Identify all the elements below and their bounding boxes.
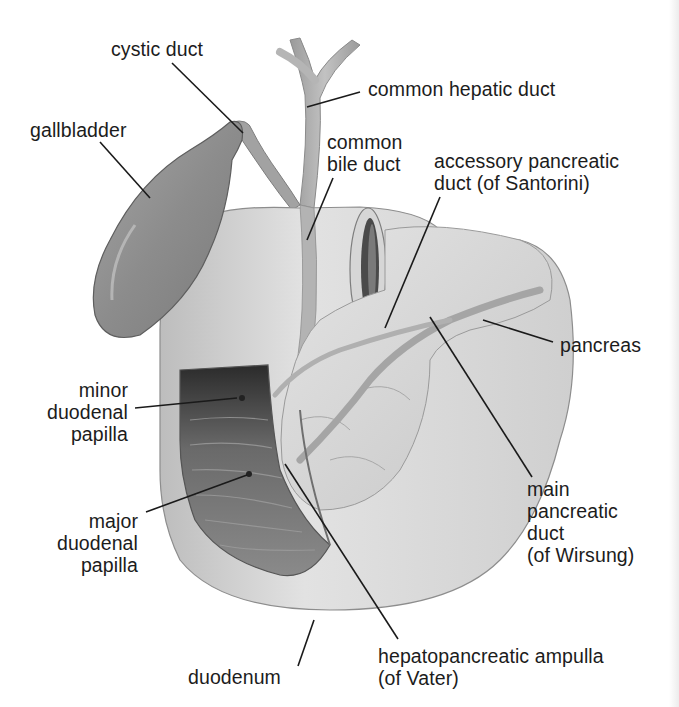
label-cystic-duct: cystic duct (111, 38, 203, 60)
page-edge-shadow (669, 0, 679, 707)
label-duodenum: duodenum (188, 666, 281, 688)
label-common-hepatic-duct: common hepatic duct (368, 78, 555, 100)
label-main-pancreatic-duct: main pancreatic duct (of Wirsung) (527, 478, 634, 566)
label-minor-duodenal-papilla: minor duodenal papilla (30, 379, 128, 445)
anatomy-diagram: cystic duct common hepatic duct gallblad… (0, 0, 679, 707)
label-common-bile-duct: common bile duct (327, 131, 402, 175)
minor-papilla-dot (239, 395, 245, 401)
label-accessory-pancreatic-duct: accessory pancreatic duct (of Santorini) (434, 150, 619, 194)
label-gallbladder: gallbladder (30, 119, 127, 141)
common-hepatic-duct-shape (280, 38, 360, 208)
label-hepatopancreatic-ampulla: hepatopancreatic ampulla (of Vater) (378, 645, 604, 689)
major-papilla-dot (246, 471, 252, 477)
label-major-duodenal-papilla: major duodenal papilla (40, 510, 138, 576)
label-pancreas: pancreas (560, 334, 641, 356)
